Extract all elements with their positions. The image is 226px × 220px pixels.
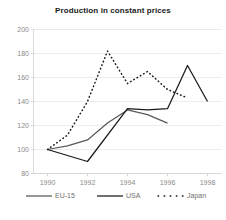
series-line-usa — [48, 66, 208, 162]
x-tick-label: 1996 — [160, 179, 176, 186]
y-axis-tick-labels: 80100120140160180200 — [17, 26, 33, 177]
data-series-group — [48, 51, 208, 161]
x-tick-label: 1994 — [120, 179, 136, 186]
y-tick-label: 160 — [17, 74, 29, 81]
chart-container: Production in constant prices 8010012014… — [0, 0, 226, 220]
series-line-japan — [48, 51, 188, 149]
y-tick-label: 120 — [17, 122, 29, 129]
legend-label-usa: USA — [126, 192, 141, 199]
gridlines-group — [34, 30, 222, 174]
legend-label-japan: Japan — [187, 192, 206, 200]
y-tick-label: 180 — [17, 50, 29, 57]
x-axis-tick-labels: 19901992199419961998 — [40, 174, 216, 186]
legend-label-eu-15: EU-15 — [55, 192, 75, 199]
x-tick-label: 1998 — [200, 179, 216, 186]
series-line-eu-15 — [48, 110, 168, 150]
x-tick-label: 1992 — [80, 179, 96, 186]
chart-legend: EU-15USAJapan — [26, 192, 206, 200]
y-tick-label: 100 — [17, 146, 29, 153]
x-tick-label: 1990 — [40, 179, 56, 186]
chart-plot-svg: 80100120140160180200 1990199219941996199… — [0, 0, 226, 220]
y-tick-label: 200 — [17, 26, 29, 33]
y-tick-label: 140 — [17, 98, 29, 105]
y-tick-label: 80 — [21, 170, 29, 177]
